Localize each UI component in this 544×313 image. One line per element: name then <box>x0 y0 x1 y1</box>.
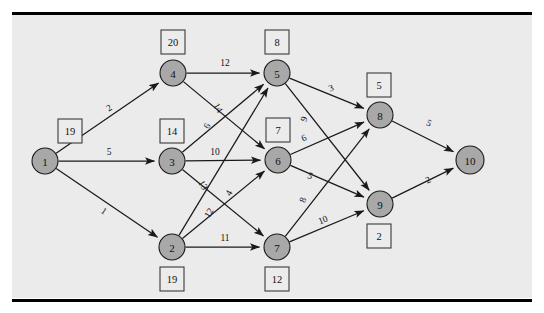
edge-weight-4-5: 12 <box>220 58 230 68</box>
graph-node-label-10: 10 <box>465 155 477 167</box>
graph-node-label-3: 3 <box>169 156 175 168</box>
graph-node-label-1: 1 <box>42 156 48 168</box>
graph-node-label-7: 7 <box>274 242 280 254</box>
graph-node-label-8: 8 <box>377 110 383 122</box>
edge-weight-3-6: 10 <box>210 147 220 157</box>
node-value-box-label-1: 19 <box>65 126 76 137</box>
graph-node-label-4: 4 <box>170 68 176 80</box>
edge-3-to-6 <box>185 160 260 161</box>
node-value-box-label-9: 2 <box>376 231 381 242</box>
edge-weight-1-3: 5 <box>107 147 112 157</box>
graph-node-label-5: 5 <box>274 68 280 80</box>
node-value-box-label-3: 14 <box>167 126 178 137</box>
figure-container: 19191420871252 12345678910 2511214610134… <box>0 0 544 313</box>
graph-node-label-9: 9 <box>377 199 383 211</box>
graph-node-label-6: 6 <box>275 155 281 167</box>
bottom-rule <box>12 299 532 302</box>
node-value-box-label-7: 12 <box>272 274 283 285</box>
graph-node-label-2: 2 <box>169 242 175 254</box>
node-value-box-label-2: 19 <box>167 274 178 285</box>
node-value-box-label-5: 8 <box>274 37 279 48</box>
top-rule <box>12 12 532 15</box>
graph-canvas: 19191420871252 12345678910 2511214610134… <box>0 0 544 313</box>
node-value-box-label-6: 7 <box>275 125 280 136</box>
edge-weight-2-7: 11 <box>220 233 229 243</box>
node-value-box-label-8: 5 <box>376 80 381 91</box>
node-value-box-label-4: 20 <box>168 37 179 48</box>
